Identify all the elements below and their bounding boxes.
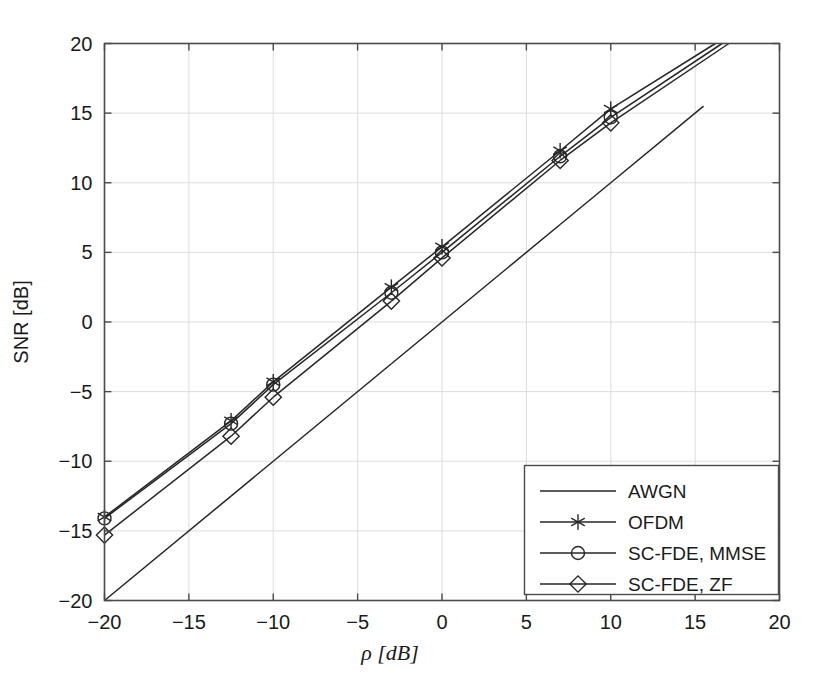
y-tick-label: 5 (81, 241, 92, 263)
legend-label-1: OFDM (628, 512, 684, 533)
y-tick-label: −20 (59, 590, 93, 612)
y-tick-label: 15 (70, 102, 92, 124)
x-tick-label: 10 (600, 611, 622, 633)
x-tick-label: −10 (256, 611, 290, 633)
legend-label-2: SC-FDE, MMSE (628, 543, 766, 564)
x-tick-label: −15 (172, 611, 206, 633)
x-axis-title-text: ρ [dB] (360, 640, 419, 665)
x-axis-title: ρ [dB] (360, 640, 419, 665)
x-tick-label: 20 (768, 611, 790, 633)
x-tick-label: −5 (346, 611, 369, 633)
y-tick-label: −5 (70, 381, 93, 403)
figure-container: −20−15−10−505101520 −20−15−10−505101520 … (0, 0, 821, 685)
y-tick-label: −15 (59, 520, 93, 542)
x-tick-label: 0 (436, 611, 447, 633)
x-tick-label: 5 (521, 611, 532, 633)
y-tick-label: 20 (70, 33, 92, 55)
legend-label-0: AWGN (628, 481, 686, 502)
x-tick-label: 15 (684, 611, 706, 633)
y-axis-title: SNR [dB] (10, 280, 32, 363)
x-axis-tick-labels: −20−15−10−505101520 (88, 611, 791, 633)
legend-label-3: SC-FDE, ZF (628, 574, 733, 595)
y-tick-label: 10 (70, 172, 92, 194)
line-chart: −20−15−10−505101520 −20−15−10−505101520 … (0, 0, 821, 685)
chart-legend[interactable]: AWGNOFDMSC-FDE, MMSESC-FDE, ZF (525, 466, 779, 596)
y-tick-label: 0 (81, 311, 92, 333)
x-tick-label: −20 (88, 611, 122, 633)
y-axis-title-text: SNR [dB] (10, 280, 32, 363)
y-tick-label: −10 (59, 450, 93, 472)
